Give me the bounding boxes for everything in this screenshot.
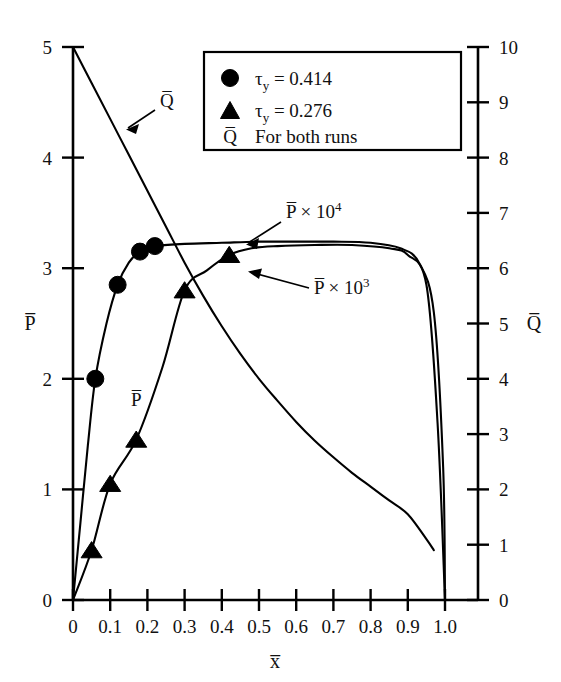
x-tick-label-4: 0.4 bbox=[210, 616, 234, 637]
right-tick-label-2: 2 bbox=[499, 479, 509, 500]
legend: τy = 0.414 τy = 0.276 Q̅ For both runs bbox=[204, 52, 461, 150]
right-tick-label-0: 0 bbox=[499, 590, 509, 611]
right-tick-label-5: 5 bbox=[499, 314, 509, 335]
data-point-triangle bbox=[219, 246, 240, 262]
data-point-triangle bbox=[100, 475, 121, 491]
pbar1e3-arrow-head bbox=[248, 269, 262, 280]
x-tick-label-7: 0.7 bbox=[322, 616, 346, 637]
left-tick-label-4: 4 bbox=[43, 148, 53, 169]
right-tick-label-4: 4 bbox=[499, 369, 509, 390]
x-tick-label-6: 0.6 bbox=[284, 616, 308, 637]
x-tick-label-2: 0.2 bbox=[136, 616, 160, 637]
data-point-circle bbox=[146, 238, 163, 255]
qbar-marker-icon: Q̅ bbox=[223, 126, 237, 147]
figure-root: 0 1 2 3 4 5 P̅ 0 1 2 3 4 5 6 7 8 9 bbox=[0, 0, 561, 682]
left-axis-title: P̅ bbox=[24, 312, 36, 334]
axis-left: 0 1 2 3 4 5 P̅ bbox=[24, 37, 84, 611]
axis-bottom: 0 0.1 0.2 0.3 0.4 0.5 0.6 0.7 0.8 0.9 1.… bbox=[68, 589, 478, 672]
annotation-qbar: Q̅ bbox=[126, 90, 174, 134]
pbar-1e3-annotation-label: P̅ × 103 bbox=[314, 275, 370, 298]
pbar1e4-leader-line bbox=[248, 222, 281, 243]
qbar-annotation-label: Q̅ bbox=[160, 90, 174, 111]
annotation-pbar-1e3: P̅ × 103 bbox=[248, 269, 370, 299]
left-tick-label-5: 5 bbox=[43, 37, 53, 58]
data-point-triangle bbox=[81, 542, 102, 558]
qbar-leader-line bbox=[128, 110, 155, 128]
data-point-circle bbox=[109, 276, 126, 293]
x-tick-label-1: 0.1 bbox=[98, 616, 122, 637]
right-tick-label-8: 8 bbox=[499, 148, 509, 169]
left-tick-label-0: 0 bbox=[43, 590, 53, 611]
legend-label-qbar: For both runs bbox=[255, 126, 357, 147]
right-axis-title: Q̅ bbox=[527, 312, 542, 334]
right-tick-label-7: 7 bbox=[499, 203, 509, 224]
left-tick-label-1: 1 bbox=[43, 479, 53, 500]
x-tick-label-5: 0.5 bbox=[247, 616, 271, 637]
left-tick-label-3: 3 bbox=[43, 258, 53, 279]
axis-right: 0 1 2 3 4 5 6 7 8 9 10 Q̅ bbox=[467, 37, 542, 611]
x-tick-label-3: 0.3 bbox=[173, 616, 197, 637]
circle-marker-icon bbox=[222, 70, 239, 87]
x-tick-label-9: 0.9 bbox=[396, 616, 420, 637]
data-point-circle bbox=[87, 370, 104, 387]
pbar-1e4-annotation-label: P̅ × 104 bbox=[286, 199, 342, 222]
series-curve-2 bbox=[73, 245, 445, 600]
series-curve-1 bbox=[73, 242, 445, 600]
x-tick-label-8: 0.8 bbox=[359, 616, 383, 637]
right-tick-label-1: 1 bbox=[499, 535, 509, 556]
data-point-triangle bbox=[174, 282, 195, 298]
bottom-axis-title: x̅ bbox=[269, 650, 281, 672]
left-tick-label-2: 2 bbox=[43, 369, 53, 390]
pbar-rising-annotation-label: P̅ bbox=[131, 389, 142, 410]
right-tick-label-10: 10 bbox=[499, 37, 518, 58]
right-tick-label-3: 3 bbox=[499, 424, 509, 445]
right-tick-label-6: 6 bbox=[499, 258, 509, 279]
data-markers-layer bbox=[81, 238, 240, 558]
right-tick-label-9: 9 bbox=[499, 92, 509, 113]
data-point-triangle bbox=[126, 431, 147, 447]
x-tick-label-0: 0 bbox=[68, 616, 78, 637]
x-tick-label-10: 1.0 bbox=[433, 616, 457, 637]
